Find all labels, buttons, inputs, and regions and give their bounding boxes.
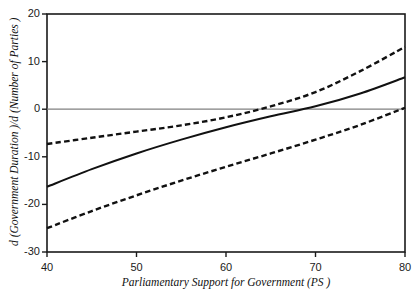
series-lower-bound-line — [47, 108, 405, 228]
x-tick-label: 80 — [385, 262, 419, 273]
series-point-estimate-line — [47, 77, 405, 186]
chart-plot-area — [0, 0, 419, 299]
x-tick-label: 60 — [206, 262, 246, 273]
x-axis-title: Parliamentary Support for Government (PS… — [47, 277, 405, 289]
x-tick-label: 70 — [296, 262, 336, 273]
x-tick-label: 40 — [27, 262, 67, 273]
plot-frame — [47, 14, 405, 252]
chart-figure: 20100-10-20-30 4050607080 Parliamentary … — [0, 0, 419, 299]
x-tick-label: 50 — [117, 262, 157, 273]
y-axis-title: d (Government Duration )/d (Number of Pa… — [9, 7, 21, 257]
